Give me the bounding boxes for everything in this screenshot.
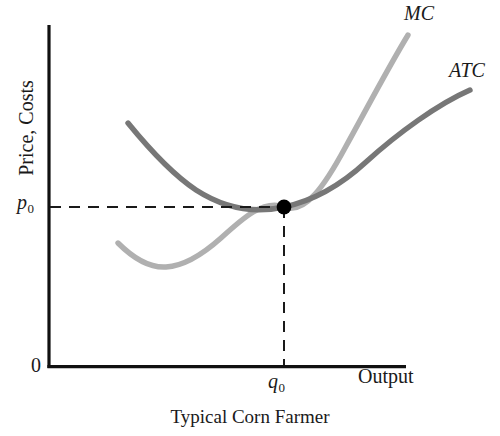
quantity-q0-symbol: q [268, 370, 278, 392]
x-axis-title: Output [358, 366, 414, 386]
atc-curve [128, 90, 470, 210]
figure-caption: Typical Corn Farmer [0, 406, 500, 428]
plot-canvas [0, 0, 500, 436]
economics-cost-curve-figure: Price, Costs Output 0 p0 q0 MC ATC Typic… [0, 0, 500, 436]
price-p0-label: p0 [17, 192, 34, 215]
equilibrium-point-dot [277, 200, 292, 215]
y-axis-title: Price, Costs [16, 58, 36, 198]
quantity-q0-label: q0 [268, 371, 285, 394]
quantity-q0-subscript: 0 [279, 380, 286, 395]
mc-curve [118, 35, 408, 267]
mc-curve-label: MC [404, 3, 434, 23]
price-p0-subscript: 0 [28, 201, 35, 216]
origin-label: 0 [31, 355, 41, 375]
price-p0-symbol: p [17, 191, 27, 213]
atc-curve-label: ATC [449, 60, 485, 80]
